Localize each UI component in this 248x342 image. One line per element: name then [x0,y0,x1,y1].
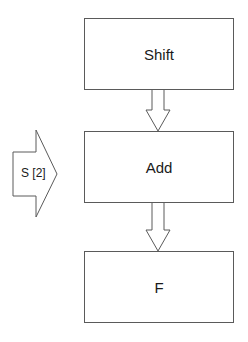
node-add: Add [84,131,234,203]
node-f: F [84,251,234,323]
input-arrow-label: S [2] [21,166,46,180]
node-add-label: Add [146,159,173,176]
node-shift-label: Shift [144,46,174,63]
node-shift: Shift [84,18,234,90]
down-arrow-add-f [146,202,170,251]
down-arrow-shift-add [146,89,170,131]
node-f-label: F [154,279,163,296]
